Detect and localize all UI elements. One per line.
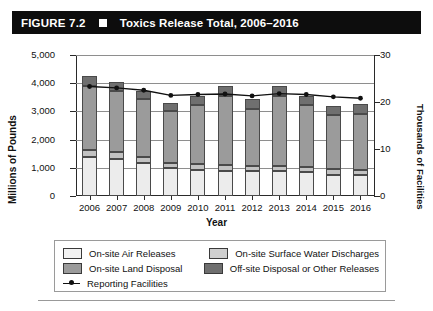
bar-segment — [136, 163, 151, 196]
bar-segment — [109, 152, 124, 158]
bar-column — [218, 55, 233, 196]
bar-segment — [326, 169, 341, 174]
legend-item-label: On-site Surface Water Discharges — [235, 248, 379, 259]
bar-segment — [163, 168, 178, 196]
figure-number: FIGURE 7.2 — [21, 17, 86, 29]
bar-segment — [326, 106, 341, 115]
y-tick-label-left: 1,000 — [9, 162, 55, 173]
y-tick-label-left: 5,000 — [9, 49, 55, 60]
bar-column — [299, 55, 314, 196]
y-axis-label-left: Millions of Pounds — [4, 100, 20, 220]
bar-segment — [353, 170, 368, 175]
bar-column — [163, 55, 178, 196]
bar-segment — [82, 86, 97, 150]
chart-plot-area: Millions of Pounds Thousands of Faciliti… — [0, 40, 433, 240]
bar-segment — [272, 96, 287, 165]
bar-segment — [218, 171, 233, 196]
x-tick-mark — [117, 196, 118, 200]
bar-segment — [109, 159, 124, 197]
bar-column — [272, 55, 287, 196]
bar-segment — [299, 96, 314, 106]
legend-item[interactable]: On-site Surface Water Discharges — [209, 248, 379, 259]
bar-segment — [163, 163, 178, 169]
bar-segment — [163, 103, 178, 111]
bar-segment — [353, 104, 368, 114]
legend-item[interactable]: Off-site Disposal or Other Releases — [204, 263, 379, 274]
x-tick-mark — [198, 196, 199, 200]
bar-segment — [82, 157, 97, 196]
x-tick-mark — [333, 196, 334, 200]
figure-container: FIGURE 7.2 Toxics Release Total, 2006–20… — [0, 0, 433, 311]
bar-segment — [353, 114, 368, 170]
legend-swatch-icon — [63, 263, 82, 274]
bar-segment — [245, 171, 260, 196]
bar-column — [136, 55, 151, 196]
bar-segment — [299, 172, 314, 196]
bar-segment — [245, 109, 260, 166]
bar-segment — [272, 166, 287, 172]
bar-segment — [353, 175, 368, 196]
y-tick-mark-left — [70, 196, 76, 197]
x-axis-label: Year — [0, 217, 433, 228]
y-axis-label-right: Thousands of Facilities — [409, 92, 431, 222]
x-tick-mark — [144, 196, 145, 200]
x-tick-mark — [360, 196, 361, 200]
legend-item[interactable]: On-site Land Disposal — [63, 263, 204, 274]
bar-segment — [136, 157, 151, 163]
legend-item[interactable]: Reporting Facilities — [63, 278, 223, 289]
bar-column — [353, 55, 368, 196]
legend-item-label: Off-site Disposal or Other Releases — [230, 263, 379, 274]
bar-column — [326, 55, 341, 196]
bar-segment — [190, 170, 205, 196]
legend-item[interactable]: On-site Air Releases — [63, 248, 209, 259]
legend-row: Reporting Facilities — [63, 276, 379, 290]
figure-title-bar: FIGURE 7.2 Toxics Release Total, 2006–20… — [12, 11, 421, 34]
bar-segment — [82, 76, 97, 86]
legend-item-label: On-site Air Releases — [89, 248, 176, 259]
white-square-icon — [99, 19, 107, 27]
figure-title: Toxics Release Total, 2006–2016 — [120, 17, 299, 29]
legend-row: On-site Land DisposalOff-site Disposal o… — [63, 261, 379, 275]
bar-column — [190, 55, 205, 196]
legend-line-marker-icon — [63, 279, 80, 288]
legend-item-label: On-site Land Disposal — [89, 263, 182, 274]
bar-segment — [109, 82, 124, 91]
bar-series-layer — [76, 55, 374, 196]
bar-segment — [245, 166, 260, 172]
bar-segment — [245, 99, 260, 108]
x-tick-mark — [225, 196, 226, 200]
x-tick-mark — [171, 196, 172, 200]
x-tick-label: 2016 — [343, 202, 377, 213]
bar-segment — [272, 86, 287, 96]
bar-segment — [136, 91, 151, 99]
legend-swatch-icon — [209, 248, 228, 259]
y-tick-label-left: 4,000 — [9, 77, 55, 88]
y-tick-label-right: 0 — [380, 190, 406, 201]
bar-column — [82, 55, 97, 196]
bar-segment — [136, 99, 151, 157]
bar-segment — [190, 164, 205, 170]
bar-segment — [299, 105, 314, 166]
bar-segment — [272, 171, 287, 196]
bar-column — [109, 55, 124, 196]
bar-segment — [218, 96, 233, 165]
bar-segment — [218, 165, 233, 171]
bottom-divider — [38, 300, 395, 301]
bar-segment — [163, 111, 178, 163]
x-tick-mark — [306, 196, 307, 200]
bar-segment — [326, 175, 341, 196]
legend-item-label: Reporting Facilities — [87, 278, 168, 289]
right-axis-line — [374, 55, 375, 196]
bar-segment — [109, 91, 124, 152]
x-tick-mark — [279, 196, 280, 200]
bar-segment — [82, 150, 97, 156]
y-tick-label-left: 3,000 — [9, 105, 55, 116]
x-tick-mark — [90, 196, 91, 200]
bar-segment — [218, 86, 233, 96]
y-tick-label-right: 20 — [380, 96, 406, 107]
bar-segment — [326, 115, 341, 169]
y-tick-label-left: 2,000 — [9, 134, 55, 145]
y-tick-label-right: 30 — [380, 49, 406, 60]
bar-segment — [190, 105, 205, 165]
legend-swatch-icon — [204, 263, 223, 274]
